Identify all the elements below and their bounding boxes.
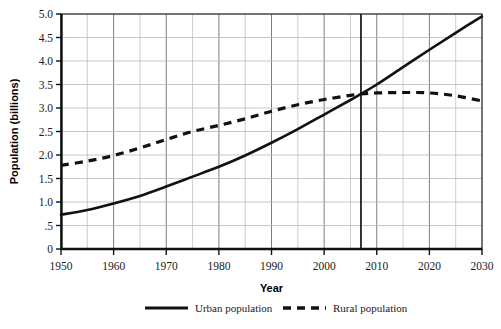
legend-label: Rural population	[333, 302, 408, 314]
y-tick-label: 2.0	[39, 149, 54, 161]
y-tick-label: .5	[44, 220, 53, 232]
x-tick-label: 2020	[418, 260, 441, 272]
x-tick-label: 2030	[471, 260, 494, 272]
y-tick-label: 1.5	[39, 173, 54, 185]
x-tick-label: 2010	[365, 260, 388, 272]
x-tick-label: 1950	[50, 260, 73, 272]
y-tick-label: 5.0	[39, 8, 54, 20]
y-tick-label: 0	[47, 243, 53, 255]
x-tick-label: 1990	[260, 260, 283, 272]
chart-svg: 0.51.01.52.02.53.03.54.04.55.0 195019601…	[0, 0, 501, 329]
x-axis-title: Year	[260, 282, 284, 294]
x-tick-label: 2000	[313, 260, 336, 272]
x-tick-label: 1970	[155, 260, 178, 272]
y-tick-label: 4.5	[39, 32, 54, 44]
y-tick-label: 3.5	[39, 79, 54, 91]
y-tick-label: 4.0	[39, 55, 54, 67]
x-tick-label: 1980	[207, 260, 230, 272]
y-tick-label: 1.0	[39, 196, 54, 208]
y-axis-tick-labels: 0.51.01.52.02.53.03.54.04.55.0	[39, 8, 54, 255]
y-tick-label: 3.0	[39, 102, 54, 114]
y-tick-label: 2.5	[39, 126, 54, 138]
chart-legend: Urban populationRural population	[145, 302, 408, 314]
y-axis-title: Population (billions)	[8, 78, 20, 184]
legend-label: Urban population	[195, 302, 273, 314]
population-line-chart: 0.51.01.52.02.53.03.54.04.55.0 195019601…	[0, 0, 501, 329]
x-tick-label: 1960	[102, 260, 125, 272]
x-axis-tick-labels: 195019601970198019902000201020202030	[50, 260, 494, 272]
